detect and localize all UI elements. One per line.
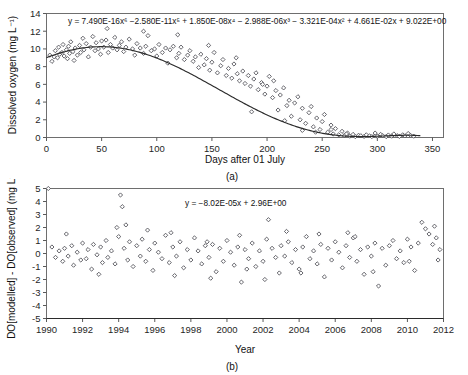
data-point-marker <box>157 42 161 46</box>
y-tick-label-b: 2 <box>35 222 40 233</box>
data-point-marker <box>144 44 148 48</box>
data-point-marker <box>281 86 285 90</box>
y-tick-label-b: 0 <box>35 248 40 259</box>
data-point-marker <box>182 266 186 270</box>
data-point-marker <box>205 240 209 244</box>
data-point-marker <box>91 34 95 38</box>
data-point-marker <box>117 43 121 47</box>
data-point-marker <box>80 241 84 245</box>
data-point-marker <box>427 232 431 236</box>
data-point-marker <box>127 37 131 41</box>
y-tick-label-a: 14 <box>30 8 41 19</box>
data-point-marker <box>243 81 247 85</box>
x-axis-ticks-b: 1990199219941996199820002002200420062008… <box>36 319 454 335</box>
data-point-marker <box>248 84 252 88</box>
data-point-marker <box>174 254 178 258</box>
data-point-marker <box>366 245 370 249</box>
data-point-marker <box>100 39 104 43</box>
data-point-marker <box>358 248 362 252</box>
data-point-marker <box>243 248 247 252</box>
plot-frame-b <box>47 189 444 319</box>
data-point-marker <box>320 119 324 123</box>
panel-b-residuals: -5-4-3-2-1012345 19901992199419961998200… <box>0 178 468 375</box>
data-point-marker <box>145 228 149 232</box>
data-point-marker <box>160 257 164 261</box>
data-point-marker <box>322 112 326 116</box>
data-point-marker <box>164 46 168 50</box>
data-point-marker <box>210 60 214 64</box>
data-point-marker <box>207 255 211 259</box>
data-point-marker <box>218 246 222 250</box>
y-tick-label-b: -2 <box>32 274 40 285</box>
data-point-marker <box>237 233 241 237</box>
data-point-marker <box>355 259 359 263</box>
data-point-marker <box>133 53 137 57</box>
data-point-marker <box>167 261 171 265</box>
data-point-marker <box>263 92 267 96</box>
data-point-marker <box>192 236 196 240</box>
data-point-marker <box>250 110 254 114</box>
data-point-marker <box>84 257 88 261</box>
data-point-marker <box>79 50 83 54</box>
data-point-marker <box>65 57 69 61</box>
data-point-marker <box>239 280 243 284</box>
data-point-marker <box>64 232 68 236</box>
data-point-marker <box>151 268 155 272</box>
data-point-marker <box>246 73 250 77</box>
x-tick-label-b: 2000 <box>216 324 237 335</box>
data-point-marker <box>53 255 57 259</box>
y-tick-label-b: 4 <box>35 196 40 207</box>
x-tick-label-a: 350 <box>425 143 441 154</box>
x-tick-label-b: 2010 <box>397 324 418 335</box>
data-point-marker <box>228 250 232 254</box>
data-point-marker <box>138 254 142 258</box>
data-point-marker <box>61 259 65 263</box>
data-point-marker <box>230 76 234 80</box>
data-point-marker <box>156 250 160 254</box>
data-point-marker <box>289 114 293 118</box>
polynomial-fit-curve <box>47 47 421 137</box>
data-point-marker <box>318 127 322 131</box>
data-point-marker <box>348 255 352 259</box>
y-tick-label-b: 5 <box>35 183 40 194</box>
data-point-marker <box>66 254 70 258</box>
data-point-marker <box>109 249 113 253</box>
data-point-marker <box>254 264 258 268</box>
y-axis-ticks-b: -5-4-3-2-1012345 <box>32 183 46 324</box>
data-point-marker <box>274 88 278 92</box>
data-point-marker <box>293 101 297 105</box>
data-point-marker <box>66 44 70 48</box>
data-point-marker <box>168 48 172 52</box>
data-point-marker <box>203 244 207 248</box>
data-point-marker <box>315 262 319 266</box>
data-point-marker <box>204 57 208 61</box>
data-point-marker <box>394 257 398 261</box>
y-tick-label-b: -5 <box>32 313 40 324</box>
data-point-marker <box>79 258 83 262</box>
data-point-marker <box>141 29 145 33</box>
data-point-marker <box>207 43 211 47</box>
data-point-marker <box>98 52 102 56</box>
data-point-marker <box>293 248 297 252</box>
data-point-marker <box>297 267 301 271</box>
data-point-marker <box>179 45 183 49</box>
data-point-marker <box>126 258 130 262</box>
y-tick-label-b: 3 <box>35 209 40 220</box>
panel-a-plot: 02468101214 050100150200250300350 y = 7.… <box>0 0 468 186</box>
plot-frame-a <box>47 14 444 138</box>
data-point-marker <box>279 244 283 248</box>
data-point-marker <box>188 49 192 53</box>
data-point-marker <box>304 121 308 125</box>
data-point-marker <box>235 72 239 76</box>
data-point-marker <box>50 245 54 249</box>
data-point-marker <box>298 118 302 122</box>
data-point-marker <box>100 261 104 265</box>
data-point-marker <box>153 241 157 245</box>
y-tick-label-b: -4 <box>32 300 40 311</box>
data-point-marker <box>340 266 344 270</box>
data-point-marker <box>317 232 321 236</box>
data-point-marker <box>405 237 409 241</box>
data-point-marker <box>261 259 265 263</box>
y-tick-label-a: 4 <box>35 96 40 107</box>
data-point-marker <box>191 59 195 63</box>
